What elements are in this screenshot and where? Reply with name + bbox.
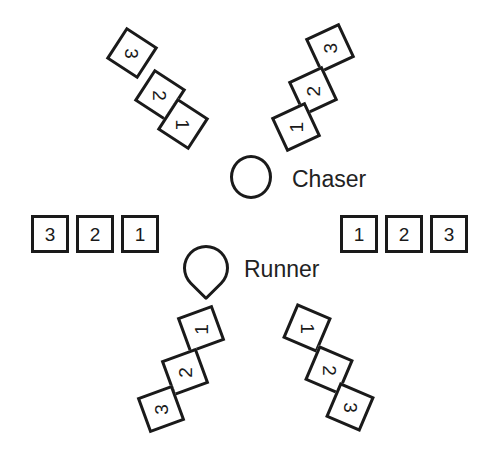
cell-label: 3 (340, 402, 359, 413)
runner-dome-icon (173, 235, 238, 300)
square-cell: 1 (282, 303, 332, 353)
chaser-label: Chaser (292, 166, 366, 193)
diagram-canvas: 3 2 1 3 2 1 3 2 1 1 (0, 0, 493, 471)
square-cell: 2 (76, 215, 114, 253)
square-cell: 3 (31, 215, 69, 253)
cell-label: 3 (444, 225, 455, 244)
chaser-circle-icon (230, 155, 272, 199)
square-cell: 1 (121, 215, 159, 253)
cell-label: 2 (319, 365, 338, 376)
cell-label: 2 (399, 225, 410, 244)
square-cell: 1 (340, 215, 378, 253)
square-cell: 3 (305, 23, 355, 73)
square-cell: 3 (106, 27, 159, 80)
square-cell: 3 (430, 215, 468, 253)
cell-label: 1 (173, 119, 192, 130)
cell-label: 1 (297, 323, 316, 334)
cell-label: 2 (150, 90, 169, 101)
square-cell: 1 (177, 305, 226, 354)
runner-label: Runner (244, 256, 319, 283)
cell-label: 1 (354, 225, 365, 244)
cell-label: 2 (303, 86, 322, 97)
cell-label: 3 (320, 43, 339, 54)
cell-label: 2 (175, 367, 194, 378)
cell-label: 3 (122, 48, 141, 59)
square-cell: 2 (385, 215, 423, 253)
cell-label: 3 (151, 404, 170, 415)
cell-label: 1 (286, 122, 305, 133)
cell-label: 3 (45, 225, 56, 244)
cell-label: 1 (135, 225, 146, 244)
cell-label: 2 (90, 225, 101, 244)
cell-label: 1 (191, 324, 210, 335)
